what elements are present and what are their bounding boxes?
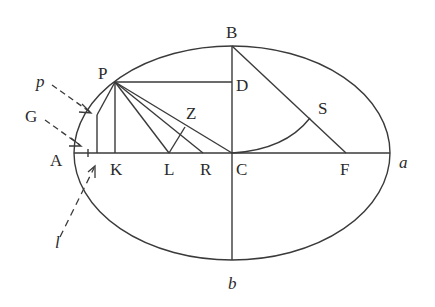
dashed-arrow-l	[60, 168, 94, 237]
label-R: R	[200, 160, 212, 179]
label-F: F	[340, 160, 349, 179]
line-PL	[115, 82, 169, 153]
line-P-to-foot	[97, 82, 115, 115]
line-PC	[115, 82, 232, 153]
label-S: S	[318, 99, 327, 118]
label-b: b	[228, 274, 237, 293]
label-Z: Z	[186, 104, 196, 123]
label-G: G	[25, 107, 37, 126]
label-C: C	[236, 160, 247, 179]
label-K: K	[110, 160, 123, 179]
dashed-arrow-p	[52, 85, 90, 112]
line-LZ	[169, 127, 185, 153]
label-B: B	[226, 23, 237, 42]
arc-CS	[232, 118, 310, 153]
label-L: L	[164, 160, 174, 179]
label-a: a	[399, 153, 408, 172]
label-l: l	[55, 233, 60, 252]
ellipse-diagram: B D P Z S G p A K L R C F a b l	[0, 0, 435, 307]
label-p: p	[35, 72, 45, 91]
label-D: D	[236, 76, 248, 95]
label-P: P	[98, 64, 107, 83]
label-A: A	[50, 151, 63, 170]
